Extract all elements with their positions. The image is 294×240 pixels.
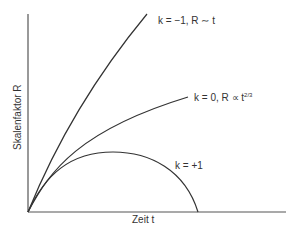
label-k-plus-1: k = +1 bbox=[175, 160, 203, 171]
label-k-minus-1: k = −1, R ∼ t bbox=[158, 15, 215, 26]
x-axis-label: Zeit t bbox=[132, 214, 154, 225]
label-k-0: k = 0, R ∝ t2/3 bbox=[194, 92, 252, 103]
chart-canvas bbox=[0, 0, 294, 240]
y-axis-label: Skalenfaktor R bbox=[12, 84, 23, 150]
curve-k-plus-1 bbox=[28, 152, 198, 212]
curve-k-0 bbox=[28, 97, 188, 212]
